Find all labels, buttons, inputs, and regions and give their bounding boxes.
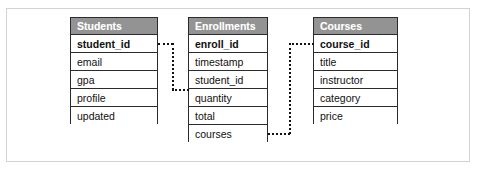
relationship-enrollments-courses-segment-end (289, 43, 314, 45)
entity-table-enrollments[interactable]: Enrollments enroll_id timestamp student_… (188, 17, 268, 142)
field-row-timestamp[interactable]: timestamp (189, 53, 267, 71)
relationship-students-enrollments-segment-vertical (172, 43, 174, 90)
field-row-quantity[interactable]: quantity (189, 89, 267, 107)
relationship-enrollments-courses-segment-start (268, 133, 290, 135)
field-row-student-id-fk[interactable]: student_id (189, 71, 267, 89)
table-header-students: Students (71, 18, 157, 35)
er-diagram-canvas: Students student_id email gpa profile up… (0, 0, 477, 172)
entity-table-students[interactable]: Students student_id email gpa profile up… (70, 17, 158, 124)
relationship-students-enrollments-segment-start (158, 43, 173, 45)
field-row-email[interactable]: email (71, 53, 157, 71)
field-row-title[interactable]: title (314, 53, 397, 71)
field-row-total[interactable]: total (189, 107, 267, 125)
field-row-gpa[interactable]: gpa (71, 71, 157, 89)
table-header-courses: Courses (314, 18, 397, 35)
field-row-price[interactable]: price (314, 107, 397, 125)
entity-table-courses[interactable]: Courses course_id title instructor categ… (313, 17, 398, 124)
field-row-category[interactable]: category (314, 89, 397, 107)
field-row-profile[interactable]: profile (71, 89, 157, 107)
field-row-instructor[interactable]: instructor (314, 71, 397, 89)
field-row-course-id[interactable]: course_id (314, 35, 397, 53)
field-row-student-id[interactable]: student_id (71, 35, 157, 53)
relationship-enrollments-courses-segment-vertical (289, 43, 291, 134)
field-row-courses[interactable]: courses (189, 125, 267, 143)
field-row-enroll-id[interactable]: enroll_id (189, 35, 267, 53)
relationship-students-enrollments-segment-end (172, 89, 189, 91)
field-row-updated[interactable]: updated (71, 107, 157, 125)
table-header-enrollments: Enrollments (189, 18, 267, 35)
